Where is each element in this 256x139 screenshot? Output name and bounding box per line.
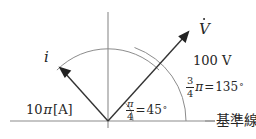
- angle-135-fraction: 3 4: [186, 76, 194, 99]
- current-magnitude-label: 10 π [A]: [26, 103, 73, 116]
- current-phasor-label: i: [44, 50, 49, 65]
- angle-135-degree-sign: °: [239, 83, 243, 92]
- current-magnitude-unit: [A]: [53, 103, 73, 116]
- angle-135-denominator: 4: [186, 88, 194, 99]
- angle-45-fraction: π 4: [126, 99, 134, 122]
- angle-135-equals: =: [204, 81, 214, 93]
- voltage-magnitude-label: 100 V: [193, 54, 231, 67]
- angle-45-label: π 4 = 45 °: [126, 97, 167, 122]
- angle-135-numerator: 3: [186, 76, 194, 87]
- angle-45-degree-sign: °: [163, 106, 167, 115]
- angle-135-pi: π: [195, 81, 203, 93]
- angle-45-numerator: π: [126, 99, 134, 110]
- angle-45-equals: =: [135, 104, 145, 116]
- angle-135-label: 3 4 π = 135 °: [186, 74, 243, 99]
- current-phasor-arrowhead: [59, 67, 72, 79]
- current-magnitude-pi: π: [44, 103, 53, 116]
- voltage-phasor-label: V: [199, 22, 210, 37]
- angle-135-value: 135: [215, 81, 238, 93]
- voltage-symbol-text: V: [199, 20, 210, 38]
- voltage-symbol-overdot: [204, 18, 206, 20]
- current-magnitude-number: 10: [26, 103, 43, 116]
- angle-45-denominator: 4: [126, 111, 134, 122]
- angle-45-value: 45: [147, 104, 162, 116]
- baseline-label: 基準線: [216, 113, 256, 127]
- phasor-diagram: V 100 V 3 4 π = 135 ° i 10 π [A]: [0, 0, 256, 139]
